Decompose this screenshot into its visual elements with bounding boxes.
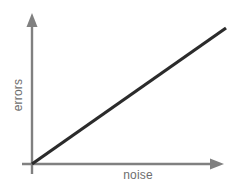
chart-plot-area (0, 0, 252, 191)
trend-line-series (32, 28, 226, 164)
chart-figure: noise errors (0, 0, 252, 191)
x-axis-label: noise (12, 169, 252, 181)
x-axis-arrow-icon (210, 159, 224, 170)
y-axis-arrow-icon (27, 13, 38, 27)
y-axis-label: errors (12, 79, 24, 112)
